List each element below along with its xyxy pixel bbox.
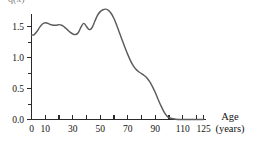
x-tick-label-6: 110 (176, 124, 190, 134)
data-curve (32, 9, 204, 119)
plot-area: 0.0 0.5 1.0 1.5 0 10 30 50 70 (0, 0, 262, 146)
x-axis: 0 10 30 50 70 90 110 125 (29, 115, 211, 134)
x-tick-label-0: 0 (29, 124, 34, 134)
y-tick-label-1: 0.5 (12, 84, 24, 94)
x-tick-label-7: 125 (196, 124, 211, 134)
x-tick-label-1: 10 (40, 124, 50, 134)
y-tick-label-3: 1.5 (12, 22, 24, 32)
x-axis-title-line2: (years) (215, 123, 245, 135)
chart-container: q(x) 0.0 0.5 1.0 1.5 (0, 0, 262, 146)
y-tick-label-0: 0.0 (12, 115, 24, 125)
x-tick-label-4: 70 (123, 124, 133, 134)
y-tick-label-2: 1.0 (12, 53, 24, 63)
x-axis-title: Age (years) (215, 111, 245, 135)
x-tick-label-3: 50 (95, 124, 105, 134)
x-axis-title-line1: Age (221, 111, 239, 122)
x-tick-label-5: 90 (150, 124, 160, 134)
x-tick-label-2: 30 (68, 124, 78, 134)
y-axis: 0.0 0.5 1.0 1.5 (12, 14, 31, 125)
